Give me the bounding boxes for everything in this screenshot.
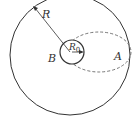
orbit-diagram: R R0 B A [0,0,138,122]
outer-radius-arrow [35,8,70,52]
point-a-label: A [113,50,122,63]
outer-radius-label: R [41,8,50,21]
point-b-label: B [47,52,56,65]
